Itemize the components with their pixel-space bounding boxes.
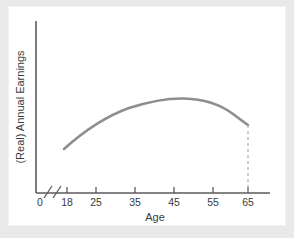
- earnings-age-chart: 0 18 25 35 45 55 65 Age (Real) Annual Ea…: [9, 7, 287, 227]
- x-axis-ticks: [67, 187, 248, 193]
- figure-frame: 0 18 25 35 45 55 65 Age (Real) Annual Ea…: [0, 0, 294, 238]
- y-axis-title: (Real) Annual Earnings: [14, 50, 26, 164]
- x-axis-break-icon: [44, 186, 61, 198]
- x-tick-label-0: 0: [37, 196, 43, 208]
- x-tick-label-25: 25: [90, 196, 102, 208]
- x-tick-label-18: 18: [61, 196, 73, 208]
- chart-panel: 0 18 25 35 45 55 65 Age (Real) Annual Ea…: [8, 6, 286, 226]
- x-tick-label-65: 65: [242, 196, 254, 208]
- x-tick-label-35: 35: [129, 196, 141, 208]
- x-axis-title: Age: [145, 211, 165, 223]
- earnings-curve: [64, 98, 248, 149]
- x-tick-label-45: 45: [168, 196, 180, 208]
- x-tick-label-55: 55: [207, 196, 219, 208]
